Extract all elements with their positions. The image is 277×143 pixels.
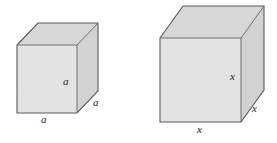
small-cube-depth-label: a bbox=[63, 76, 69, 87]
large-cube-depth-label: x bbox=[230, 71, 235, 82]
large-cube-width-label: x bbox=[197, 124, 202, 135]
large-cube bbox=[160, 6, 264, 122]
cube-comparison-figure: a a a x x x bbox=[0, 0, 277, 143]
small-cube-height-label: a bbox=[93, 97, 99, 108]
large-cube-height-label: x bbox=[252, 103, 257, 114]
large-cube-front-face bbox=[160, 38, 241, 122]
small-cube-width-label: a bbox=[41, 114, 47, 125]
small-cube bbox=[17, 23, 98, 113]
